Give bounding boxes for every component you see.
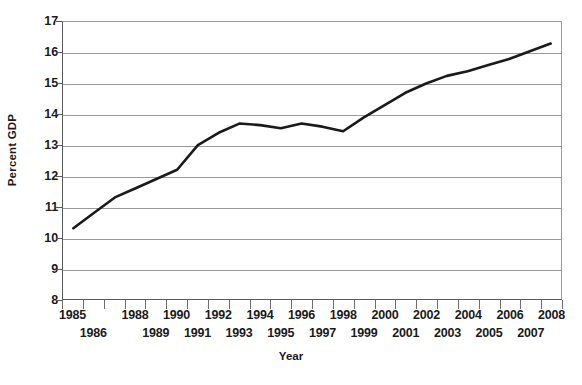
y-axis-tick-label: 16 [18, 45, 58, 59]
x-axis-tick-label: 2001 [392, 326, 419, 340]
y-axis-title-text: Percent GDP [6, 114, 18, 187]
x-axis-tick-label: 1992 [205, 308, 232, 322]
x-axis-tick-label: 2005 [476, 326, 503, 340]
plot-area [62, 21, 562, 300]
chart-figure: Percent GDP 171615141312111098 198519861… [0, 0, 582, 385]
x-axis-tick-label: 1995 [267, 326, 294, 340]
data-series-layer [63, 22, 561, 299]
x-axis-tick-label: 2004 [455, 308, 482, 322]
x-axis-title-text: Year [279, 350, 303, 362]
x-axis-title: Year [0, 350, 582, 362]
y-axis-tick-label: 13 [18, 138, 58, 152]
x-axis-tick-label: 1993 [226, 326, 253, 340]
x-axis-tick-label: 2000 [371, 308, 398, 322]
x-axis-tick-label: 1991 [184, 326, 211, 340]
y-axis-tick-label: 17 [18, 14, 58, 28]
y-axis-tick-label: 11 [18, 200, 58, 214]
y-axis-tick-label: 8 [18, 293, 58, 307]
line-series-percent-gdp [73, 44, 550, 229]
x-axis-tick-label: 1986 [80, 326, 107, 340]
y-axis-tick-label: 12 [18, 169, 58, 183]
x-axis-tick-label: 1999 [351, 326, 378, 340]
x-axis-tick-label: 2006 [496, 308, 523, 322]
x-axis-tick-label: 1996 [288, 308, 315, 322]
x-axis-tick-label: 1990 [163, 308, 190, 322]
x-axis-tick-mark [104, 300, 105, 309]
x-axis-tick-label: 1988 [121, 308, 148, 322]
x-axis-tick-label: 2003 [434, 326, 461, 340]
x-axis-tick-label: 1989 [142, 326, 169, 340]
y-axis-tick-label: 14 [18, 107, 58, 121]
x-axis-tick-label: 1994 [246, 308, 273, 322]
x-axis-tick-label: 2007 [517, 326, 544, 340]
x-axis-tick-label: 1997 [309, 326, 336, 340]
x-axis-tick-label: 1998 [330, 308, 357, 322]
y-axis-tick-label: 10 [18, 231, 58, 245]
y-axis-tick-label: 15 [18, 76, 58, 90]
x-axis-tick-label: 2002 [413, 308, 440, 322]
y-axis-tick-label: 9 [18, 262, 58, 276]
x-axis-tick-label: 2008 [538, 308, 565, 322]
x-axis-tick-label: 1985 [59, 308, 86, 322]
